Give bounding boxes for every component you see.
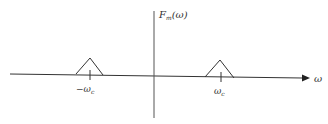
tick-label-negative: −ωc (76, 84, 95, 95)
tick-label-positive: ωc (214, 86, 225, 97)
x-axis-arrow-icon (302, 75, 310, 82)
spectrum-diagram: Fm(ω) ω −ωc ωc (0, 0, 328, 124)
x-axis-label: ω (314, 73, 322, 84)
spectrum-triangle-positive (205, 60, 234, 78)
x-axis (10, 74, 302, 78)
y-axis-label: Fm(ω) (158, 9, 188, 21)
